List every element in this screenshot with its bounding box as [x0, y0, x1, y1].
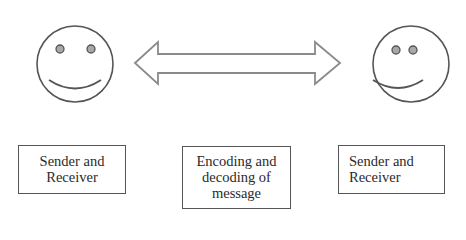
sender-receiver-box-right: Sender and Receiver — [338, 145, 445, 194]
encoding-decoding-box: Encoding and decoding of message — [182, 146, 291, 209]
sender-receiver-box-left: Sender and Receiver — [18, 145, 126, 194]
right-face-outline — [373, 26, 449, 102]
left-face-left-eye — [56, 45, 64, 53]
left-face-smile — [49, 80, 101, 89]
box-mid-line-2: decoding of — [183, 169, 290, 185]
box-mid-line-1: Encoding and — [183, 153, 290, 169]
box-right-line-2: Receiver — [349, 169, 444, 185]
right-smiley-face-icon — [373, 26, 449, 102]
box-mid-line-3: message — [183, 185, 290, 201]
box-left-line-2: Receiver — [19, 169, 125, 185]
box-right-line-1: Sender and — [349, 153, 444, 169]
double-headed-arrow-icon — [135, 42, 340, 84]
right-face-right-eye — [409, 46, 417, 54]
left-face-right-eye — [87, 45, 95, 53]
box-left-line-1: Sender and — [19, 153, 125, 169]
left-face-outline — [37, 26, 113, 102]
right-face-left-eye — [392, 46, 400, 54]
left-smiley-face-icon — [37, 26, 113, 102]
